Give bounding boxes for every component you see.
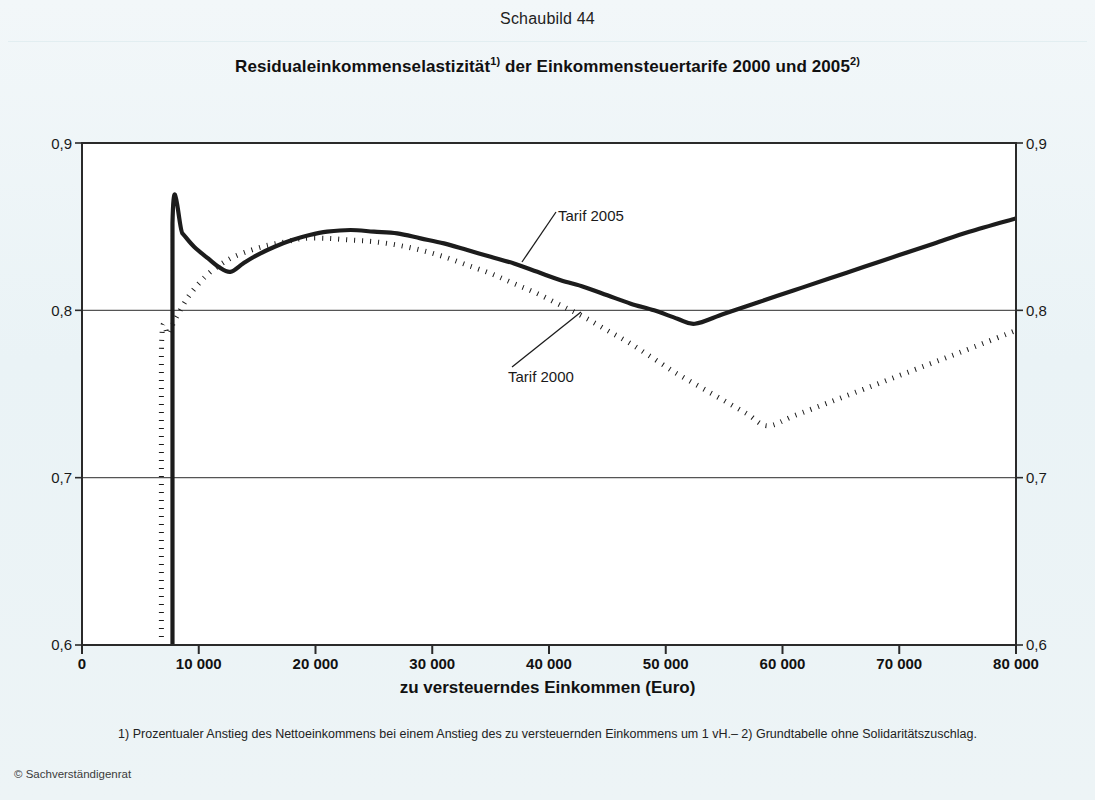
y-tick-right-0: 0,9	[1026, 135, 1076, 152]
series-label-tarif-2005: Tarif 2005	[558, 207, 624, 224]
y-tick-right-3: 0,6	[1026, 636, 1076, 653]
x-tick-label-10000: 10 000	[139, 655, 259, 672]
x-tick-label-60000: 60 000	[723, 655, 843, 672]
x-tick-label-20000: 20 000	[256, 655, 376, 672]
x-tick-label-80000: 80 000	[956, 655, 1076, 672]
chart-page: Schaubild 44 Residualeinkommenselastizit…	[0, 0, 1095, 800]
y-tick-left-1: 0,8	[22, 302, 72, 319]
x-tick-label-0: 0	[22, 655, 142, 672]
y-tick-left-2: 0,7	[22, 469, 72, 486]
x-tick-marks	[82, 645, 1016, 654]
y-tick-left-0: 0,9	[22, 135, 72, 152]
plot-area: Tarif 2005 Tarif 2000 0,9 0,8 0,7 0,6 0,…	[0, 0, 1095, 800]
x-tick-label-40000: 40 000	[489, 655, 609, 672]
copyright-notice: © Sachverständigenrat	[14, 768, 131, 780]
plot-background	[82, 143, 1016, 645]
y-tick-right-1: 0,8	[1026, 302, 1076, 319]
chart-footnote: 1) Prozentualer Anstieg des Nettoeinkomm…	[0, 727, 1095, 741]
x-tick-label-50000: 50 000	[606, 655, 726, 672]
series-label-tarif-2000: Tarif 2000	[508, 368, 574, 385]
y-tick-left-3: 0,6	[22, 636, 72, 653]
x-tick-label-70000: 70 000	[839, 655, 959, 672]
y-tick-right-2: 0,7	[1026, 469, 1076, 486]
x-tick-label-30000: 30 000	[372, 655, 492, 672]
x-axis-title: zu versteuerndes Einkommen (Euro)	[0, 678, 1095, 698]
